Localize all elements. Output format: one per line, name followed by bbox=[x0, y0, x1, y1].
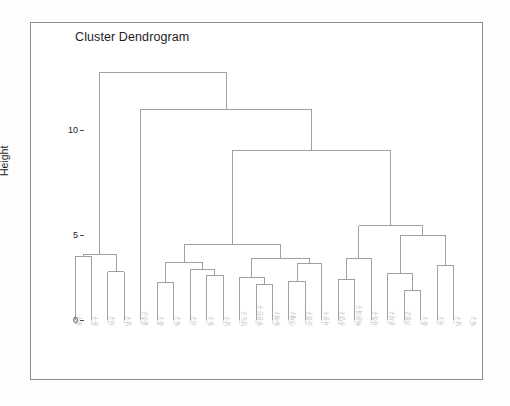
leaf-label: 해운대구 bbox=[357, 305, 363, 326]
dendrogram-link bbox=[437, 266, 453, 320]
leaf-label: 남구 bbox=[126, 316, 132, 326]
leaf-label: 중구 bbox=[423, 316, 429, 326]
leaf-label: 영도구 bbox=[242, 310, 248, 326]
dendrogram-plot bbox=[0, 0, 510, 406]
dendrogram-links bbox=[75, 72, 454, 320]
leaf-label: 부산진구 bbox=[258, 305, 264, 326]
leaf-label: 울주군 bbox=[143, 310, 149, 326]
leaf-label: 서구 bbox=[192, 316, 198, 326]
dendrogram-link bbox=[400, 235, 445, 273]
leaf-label: 남구 bbox=[456, 316, 462, 326]
dendrogram-link bbox=[190, 270, 215, 320]
dendrogram-link bbox=[157, 283, 173, 320]
leaf-label: 서구 bbox=[439, 316, 445, 326]
leaf-label: 기장군 bbox=[406, 310, 412, 326]
leaf-label: 금정구 bbox=[307, 310, 313, 326]
dendrogram-link bbox=[83, 254, 116, 271]
leaf-label: 북구 bbox=[472, 316, 478, 326]
leaf-label: 강서구 bbox=[390, 310, 396, 326]
leaf-label: 동래구 bbox=[275, 310, 281, 326]
dendrogram-link bbox=[359, 226, 423, 258]
leaf-label: 사하구 bbox=[373, 310, 379, 326]
dendrogram-link bbox=[252, 258, 310, 277]
dendrogram-link bbox=[75, 256, 91, 320]
dendrogram-link bbox=[232, 151, 390, 245]
leaf-label: 중구 bbox=[77, 316, 83, 326]
leaf-label: 남구 bbox=[225, 316, 231, 326]
leaf-label: 동구 bbox=[209, 316, 215, 326]
dendrogram-link bbox=[100, 72, 227, 254]
dendrogram-link bbox=[166, 262, 203, 283]
leaf-label: 사상구 bbox=[324, 310, 330, 326]
leaf-label: 서구 bbox=[110, 316, 116, 326]
leaf-label: 동구 bbox=[93, 316, 99, 326]
leaf-label: 중구 bbox=[159, 316, 165, 326]
leaf-label: 북구 bbox=[176, 316, 182, 326]
dendrogram-link bbox=[184, 245, 281, 262]
dendrogram-link bbox=[141, 109, 312, 320]
leaf-label: 수영구 bbox=[340, 310, 346, 326]
dendrogram-link bbox=[207, 275, 223, 320]
leaf-label: 연제구 bbox=[291, 310, 297, 326]
dendrogram-link bbox=[108, 272, 124, 320]
